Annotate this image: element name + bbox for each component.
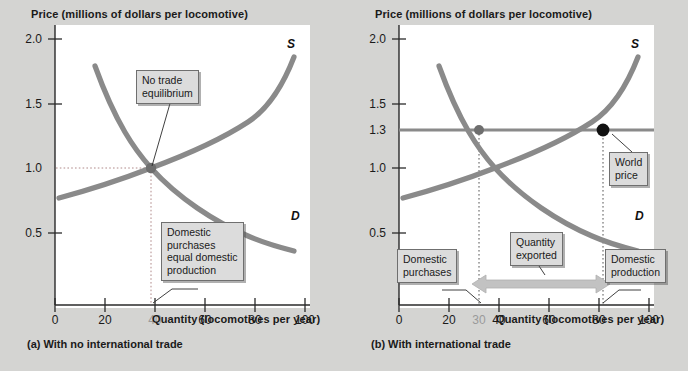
panel-b-x-axis-title: Quantity (locomotives per year) xyxy=(496,313,664,325)
panel-b-ylabel-0p5: 0.5 xyxy=(356,226,386,240)
figure-container: Price (millions of dollars per locomotiv… xyxy=(0,0,688,371)
panel-a-x-axis-title: Quantity (locomotives per year) xyxy=(152,313,320,325)
panel-a-ylabel-1p0: 1.0 xyxy=(12,161,42,175)
panel-b-callout-world-price: World price xyxy=(609,152,648,186)
panel-b-demand-label: D xyxy=(635,209,644,223)
panel-b-domestic-production-point xyxy=(597,124,610,137)
panel-a-callout-domestic-purchases: Domestic purchases equal domestic produc… xyxy=(161,222,244,281)
panel-b-caption: (b) With international trade xyxy=(371,338,511,350)
panel-b-ylabel-1p0: 1.0 xyxy=(356,161,386,175)
panel-b-xlabel-20: 20 xyxy=(434,313,464,327)
panel-b-domestic-purchases-leader-line xyxy=(442,290,481,303)
panel-b-callout-domestic-production: Domestic production xyxy=(605,249,666,283)
panel-b-domestic-purchases-point xyxy=(474,125,484,135)
panel-b-xlabel-0: 0 xyxy=(384,313,414,327)
panel-a-callout-no-trade-equilibrium: No trade equilibrium xyxy=(136,70,199,104)
panel-b-with-international-trade: Price (millions of dollars per locomotiv… xyxy=(344,0,688,371)
panel-a-xlabel-20: 20 xyxy=(90,313,120,327)
panel-b-quantity-exported-arrow xyxy=(472,275,610,293)
panel-b-supply-label: S xyxy=(631,37,639,51)
panel-a-ylabel-0p5: 0.5 xyxy=(12,226,42,240)
panel-a-xlabel-0: 0 xyxy=(40,313,70,327)
panel-b-ylabel-1p3: 1.3 xyxy=(356,123,386,137)
panel-a-domestic-leader-line xyxy=(153,289,198,303)
panel-a-equilibrium-point xyxy=(146,163,156,173)
panel-b-domestic-production-leader-line xyxy=(603,290,641,303)
panel-a-caption: (a) With no international trade xyxy=(27,338,183,350)
panel-a-ylabel-2p0: 2.0 xyxy=(12,32,42,46)
panel-a-demand-label: D xyxy=(291,209,300,223)
panel-a-no-international-trade: Price (millions of dollars per locomotiv… xyxy=(0,0,344,371)
panel-b-ylabel-1p5: 1.5 xyxy=(356,97,386,111)
panel-a-no-trade-leader-line xyxy=(152,100,171,166)
panel-a-ylabel-1p5: 1.5 xyxy=(12,97,42,111)
panel-b-callout-domestic-purchases: Domestic purchases xyxy=(397,249,457,283)
panel-b-ylabel-2p0: 2.0 xyxy=(356,32,386,46)
panel-a-supply-label: S xyxy=(287,37,295,51)
panel-b-world-price-leader-line xyxy=(612,134,632,152)
panel-b-callout-quantity-exported: Quantity exported xyxy=(510,232,563,266)
